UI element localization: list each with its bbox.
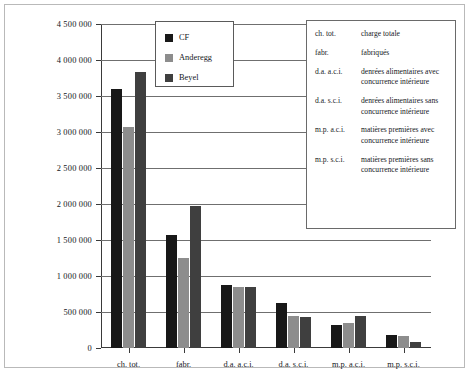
gridline xyxy=(101,312,431,313)
bar-cf-2 xyxy=(221,285,233,348)
abbreviation-term: m.p. a.c.i. xyxy=(315,125,361,146)
bar-beyel-4 xyxy=(355,316,367,348)
bar-beyel-3 xyxy=(300,317,312,348)
x-axis-tick-label: m.p. s.c.i. xyxy=(387,360,420,369)
bar-cf-4 xyxy=(331,325,343,348)
x-axis-line xyxy=(101,347,431,348)
bar-anderegg-5 xyxy=(398,336,410,348)
gridline xyxy=(101,240,431,241)
x-axis-tick xyxy=(349,348,350,353)
x-axis-tick xyxy=(184,348,185,353)
abbreviation-definition: fabriqués xyxy=(361,48,389,58)
bar-beyel-1 xyxy=(190,206,202,348)
y-axis-tick xyxy=(96,240,101,241)
x-axis-tick-label: ch. tot. xyxy=(117,360,140,369)
abbreviation-term: d.a. s.c.i. xyxy=(315,96,361,117)
legend-item-label: Anderegg xyxy=(179,54,212,62)
legend-item-cf: CF xyxy=(165,29,233,47)
abbreviation-definition: denrées alimentaires avec concurrence in… xyxy=(361,67,449,88)
legend-swatch-icon xyxy=(165,54,173,62)
series-legend: CFAndereggBeyel xyxy=(155,21,234,87)
x-axis-tick xyxy=(404,348,405,353)
y-axis-tick-label: 500 000 xyxy=(63,308,92,317)
y-axis-tick-label: 2 000 000 xyxy=(57,200,92,209)
bar-anderegg-0 xyxy=(123,127,135,348)
abbreviation-key-box: ch. tot.charge totalefabr.fabriquésd.a. … xyxy=(306,20,456,229)
y-axis-tick-label: 0 xyxy=(88,344,92,353)
y-axis-tick xyxy=(96,204,101,205)
y-axis-tick xyxy=(96,24,101,25)
bar-beyel-5 xyxy=(410,342,422,348)
abbreviation-row: fabr.fabriqués xyxy=(315,48,449,58)
y-axis-tick xyxy=(96,60,101,61)
y-axis-tick xyxy=(96,312,101,313)
abbreviation-row: m.p. a.c.i.matières premières avec concu… xyxy=(315,125,449,146)
bar-cf-0 xyxy=(111,89,123,348)
bar-anderegg-4 xyxy=(343,323,355,348)
abbreviation-row: ch. tot.charge totale xyxy=(315,29,449,39)
legend-item-anderegg: Anderegg xyxy=(165,49,233,67)
y-axis-tick-label: 2 500 000 xyxy=(57,164,92,173)
bar-anderegg-3 xyxy=(288,316,300,348)
gridline xyxy=(101,276,431,277)
abbreviation-definition: charge totale xyxy=(361,29,400,39)
y-axis-tick-label: 1 500 000 xyxy=(57,236,92,245)
x-axis-tick-label: fabr. xyxy=(176,360,191,369)
y-axis-tick-label: 4 000 000 xyxy=(57,56,92,65)
bar-beyel-2 xyxy=(245,287,257,348)
abbreviation-term: m.p. s.c.i. xyxy=(315,155,361,176)
x-axis-tick xyxy=(239,348,240,353)
y-axis-tick-label: 4 500 000 xyxy=(57,20,92,29)
y-axis-tick-label: 1 000 000 xyxy=(57,272,92,281)
legend-item-beyel: Beyel xyxy=(165,69,233,87)
abbreviation-term: ch. tot. xyxy=(315,29,361,39)
y-axis-tick-label: 3 000 000 xyxy=(57,128,92,137)
y-axis-tick-label: 3 500 000 xyxy=(57,92,92,101)
y-axis-tick xyxy=(96,168,101,169)
x-axis-tick xyxy=(294,348,295,353)
y-axis-tick xyxy=(96,96,101,97)
bar-cf-3 xyxy=(276,303,288,348)
legend-item-label: Beyel xyxy=(179,74,199,82)
y-axis-tick xyxy=(96,348,101,349)
legend-swatch-icon xyxy=(165,34,173,42)
abbreviation-row: d.a. a.c.i.denrées alimentaires avec con… xyxy=(315,67,449,88)
abbreviation-definition: denrées alimentaires sans concurrence in… xyxy=(361,96,449,117)
bar-cf-1 xyxy=(166,235,178,348)
abbreviation-term: fabr. xyxy=(315,48,361,58)
y-axis-tick xyxy=(96,132,101,133)
chart-frame: 0500 0001 000 0001 500 0002 000 0002 500… xyxy=(4,4,465,368)
bar-cf-5 xyxy=(386,335,398,348)
y-axis-tick xyxy=(96,276,101,277)
abbreviation-row: d.a. s.c.i.denrées alimentaires sans con… xyxy=(315,96,449,117)
legend-item-label: CF xyxy=(179,34,189,42)
abbreviation-definition: matières premières sans concurrence inté… xyxy=(361,155,449,176)
x-axis-tick xyxy=(129,348,130,353)
bar-anderegg-1 xyxy=(178,258,190,348)
abbreviation-definition: matières premières avec concurrence inté… xyxy=(361,125,449,146)
legend-swatch-icon xyxy=(165,74,173,82)
y-axis-line xyxy=(101,24,102,348)
x-axis-tick-label: m.p. a.c.i. xyxy=(332,360,365,369)
x-axis-tick-label: d.a. s.c.i. xyxy=(279,360,309,369)
bar-beyel-0 xyxy=(135,72,147,348)
bar-anderegg-2 xyxy=(233,287,245,348)
abbreviation-term: d.a. a.c.i. xyxy=(315,67,361,88)
abbreviation-row: m.p. s.c.i.matières premières sans concu… xyxy=(315,155,449,176)
x-axis-tick-label: d.a. a.c.i. xyxy=(223,360,253,369)
